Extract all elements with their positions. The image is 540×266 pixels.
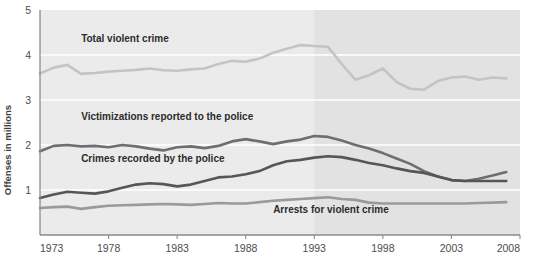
x-tick-label: 1988 [234,242,258,254]
y-tick-label: 2 [25,139,31,151]
series-label-victimizations-reported-to-the-police: Victimizations reported to the police [81,111,254,122]
x-tick-label: 1983 [165,242,189,254]
shaded-region [314,10,520,235]
y-tick-label: 3 [25,94,31,106]
y-axis-title: Offenses in millions [2,105,13,195]
y-tick-label: 1 [25,184,31,196]
x-tick-label: 2003 [440,242,464,254]
x-tick-label: 1973 [40,242,64,254]
series-label-crimes-recorded-by-the-police: Crimes recorded by the police [81,153,225,164]
y-axis-ticks-group: 12345 [25,4,31,196]
chart-container: 19731978198319881993199820032008 12345 T… [0,0,540,266]
x-axis-ticks-group: 19731978198319881993199820032008 [40,235,520,254]
x-tick-label: 2008 [497,242,521,254]
y-tick-label: 5 [25,4,31,16]
y-tick-label: 4 [25,49,31,61]
series-label-total-violent-crime: Total violent crime [81,33,169,44]
violent-crime-line-chart: 19731978198319881993199820032008 12345 T… [0,0,540,266]
x-tick-label: 1978 [97,242,121,254]
series-label-arrests-for-violent-crime: Arrests for violent crime [273,204,389,215]
x-tick-label: 1993 [303,242,327,254]
x-tick-label: 1998 [371,242,395,254]
